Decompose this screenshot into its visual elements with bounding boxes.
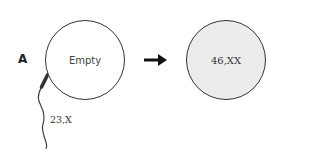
arrow-right-icon xyxy=(144,54,167,66)
zygote-label: 46,XX xyxy=(211,55,241,66)
zygote-cell: 46,XX xyxy=(186,20,266,100)
egg-label: Empty xyxy=(69,55,101,66)
sperm-label: 23,X xyxy=(50,114,72,125)
egg-cell: Empty xyxy=(45,20,125,100)
